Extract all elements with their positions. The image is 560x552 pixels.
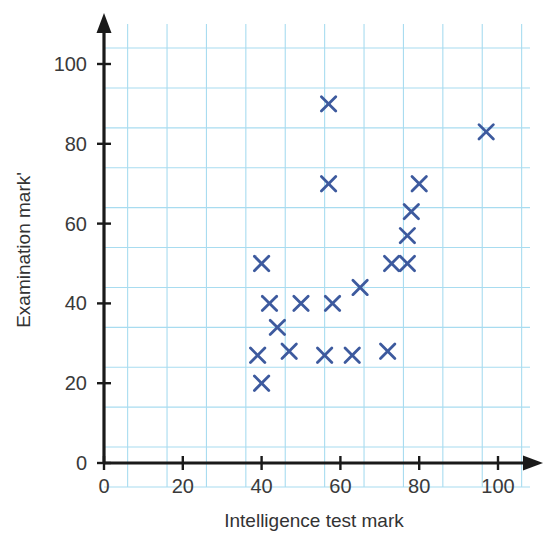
x-tick-label: 60 [329,475,351,497]
data-point-marker [321,177,335,191]
axes [97,13,544,471]
data-point-marker [345,348,359,362]
x-tick-label: 100 [481,475,514,497]
data-point-marker [254,256,268,270]
y-tick-label: 100 [54,53,87,75]
x-tick-label: 80 [408,475,430,497]
data-point-marker [479,125,493,139]
y-tick-label: 80 [65,133,87,155]
y-axis-arrow [97,13,112,33]
data-point-marker [412,177,426,191]
axis-ticks [97,64,498,470]
y-tick-label: 60 [65,213,87,235]
scatter-plot-figure: 020406080100020406080100 Intelligence te… [0,0,560,552]
y-axis-label: Examination mark' [13,172,34,328]
data-point-marker [380,344,394,358]
y-tick-label: 0 [76,452,87,474]
data-point-marker [400,256,414,270]
x-axis-label: Intelligence test mark [224,510,404,531]
x-tick-label: 20 [172,475,194,497]
grid-lines [104,24,530,487]
axis-tick-labels: 020406080100020406080100 [54,53,515,497]
data-point-marker [250,348,264,362]
y-tick-label: 20 [65,372,87,394]
data-point-marker [400,228,414,242]
data-point-marker [404,204,418,218]
data-points [250,97,493,391]
x-tick-label: 40 [250,475,272,497]
data-point-marker [282,344,296,358]
data-point-marker [321,97,335,111]
x-tick-label: 0 [98,475,109,497]
data-point-marker [325,296,339,310]
data-point-marker [262,296,276,310]
data-point-marker [384,256,398,270]
x-axis-arrow [523,456,543,471]
y-tick-label: 40 [65,292,87,314]
data-point-marker [254,376,268,390]
data-point-marker [294,296,308,310]
